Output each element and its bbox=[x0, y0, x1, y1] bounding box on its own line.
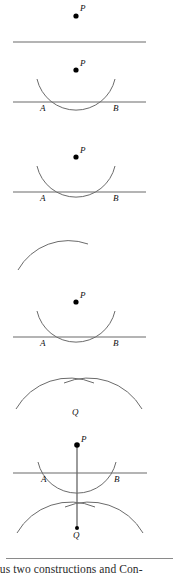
panel-2-drawing bbox=[0, 58, 179, 140]
panel-7: P A B Q bbox=[0, 433, 179, 555]
label-p: P bbox=[80, 146, 86, 155]
label-q: Q bbox=[72, 408, 79, 417]
point-p-dot bbox=[73, 299, 78, 304]
label-q: Q bbox=[73, 531, 80, 540]
arc-from-a bbox=[16, 378, 94, 409]
panel-5-drawing bbox=[0, 285, 179, 375]
label-a: A bbox=[40, 104, 46, 113]
arc-from-b bbox=[64, 378, 142, 409]
caption-divider bbox=[6, 558, 173, 559]
point-p-dot bbox=[73, 67, 78, 72]
panel-1-drawing bbox=[0, 0, 179, 58]
label-b: B bbox=[113, 194, 119, 203]
panel-3: P A B bbox=[0, 140, 179, 230]
label-a: A bbox=[40, 339, 46, 348]
arc-from-a bbox=[17, 502, 95, 533]
panel-2: P A B bbox=[0, 58, 179, 140]
panel-6-drawing bbox=[0, 375, 179, 433]
arc-from-p bbox=[37, 79, 115, 110]
label-p: P bbox=[80, 59, 86, 68]
label-p: P bbox=[81, 435, 87, 444]
label-p: P bbox=[80, 291, 86, 300]
label-b: B bbox=[113, 104, 119, 113]
point-p-dot bbox=[73, 13, 78, 18]
construction-figure: P P A B P A B P A bbox=[0, 0, 179, 578]
panel-4 bbox=[0, 230, 179, 285]
label-b: B bbox=[113, 339, 119, 348]
panel-6: Q bbox=[0, 375, 179, 433]
point-p-dot bbox=[73, 154, 78, 159]
panel-7-drawing bbox=[0, 433, 179, 555]
panel-4-drawing bbox=[0, 230, 179, 285]
label-p: P bbox=[80, 4, 86, 13]
point-p-dot bbox=[74, 442, 80, 448]
panel-1: P bbox=[0, 0, 179, 58]
arc-single bbox=[18, 241, 88, 270]
caption-text: ous two constructions and Con- bbox=[0, 563, 173, 575]
panel-3-drawing bbox=[0, 140, 179, 230]
panel-5: P A B bbox=[0, 285, 179, 375]
label-b: B bbox=[114, 475, 120, 484]
label-a: A bbox=[40, 194, 46, 203]
label-a: A bbox=[41, 475, 47, 484]
